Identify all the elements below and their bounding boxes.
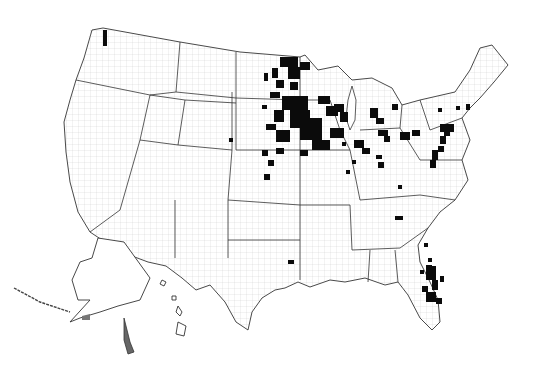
us-county-map: [0, 0, 543, 378]
alaska: [14, 238, 150, 354]
hawaii: [160, 280, 186, 336]
